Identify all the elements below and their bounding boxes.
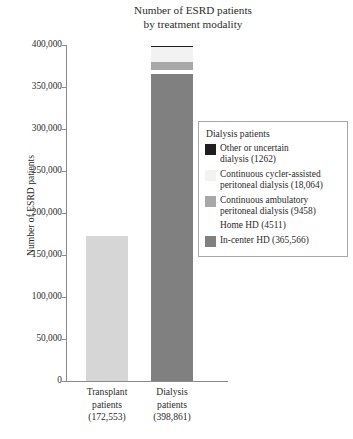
- chart-legend: Dialysis patients Other or uncertaindial…: [198, 121, 348, 257]
- y-axis-tick-mark: [62, 213, 66, 214]
- legend-item-label-line-1: Continuous ambulatory: [220, 195, 316, 206]
- legend-item-label-line-1: In-center HD (365,566): [220, 235, 309, 246]
- bar-transplant-patients: [86, 236, 128, 381]
- legend-swatch-icon: [205, 196, 216, 207]
- bar-segment-continuous-cycler-assisted-peritoneal-dialysis: [151, 47, 193, 62]
- x-axis-category-line-3: (398,861): [130, 411, 214, 424]
- chart-title-line-2: by treatment modality: [113, 18, 273, 32]
- bar-segment-continuous-ambulatory-peritoneal-dialysis: [151, 62, 193, 70]
- legend-item-label-line-2: dialysis (1262): [220, 154, 289, 165]
- legend-item-label: Home HD (4511): [220, 220, 286, 231]
- legend-item-label-line-2: peritoneal dialysis (9458): [220, 206, 316, 217]
- y-axis-tick-mark: [62, 255, 66, 256]
- y-axis-tick-mark: [62, 129, 66, 130]
- legend-title: Dialysis patients: [206, 128, 342, 139]
- legend-item-label-line-2: peritoneal dialysis (18,064): [220, 180, 323, 191]
- y-axis-tick-mark: [62, 339, 66, 340]
- y-axis-line: [66, 45, 67, 381]
- x-axis-category-line-1: Dialysis: [130, 386, 214, 399]
- legend-item-label-line-1: Continuous cycler-assisted: [220, 169, 323, 180]
- y-axis-tick-label: 300,000: [0, 123, 62, 133]
- legend-item-label: Other or uncertaindialysis (1262): [220, 143, 289, 166]
- bar-segment-other-or-uncertain-dialysis: [151, 46, 193, 47]
- y-axis-tick-label: 350,000: [0, 81, 62, 91]
- legend-item-label: Continuous ambulatoryperitoneal dialysis…: [220, 195, 316, 218]
- y-axis-tick-mark: [62, 87, 66, 88]
- legend-swatch-icon: [205, 221, 216, 232]
- bar-segment-home-hd: [151, 70, 193, 74]
- legend-item-label-line-1: Home HD (4511): [220, 220, 286, 231]
- chart-title: Number of ESRD patients by treatment mod…: [113, 4, 273, 31]
- legend-item-group: Other or uncertaindialysis (1262)Continu…: [205, 143, 342, 247]
- bar-dialysis-patients: [151, 46, 193, 381]
- legend-swatch-icon: [205, 170, 216, 181]
- y-axis-tick-mark: [62, 297, 66, 298]
- esrd-treatment-modality-chart: Number of ESRD patients by treatment mod…: [0, 0, 353, 439]
- legend-swatch-icon: [205, 144, 216, 155]
- chart-title-line-1: Number of ESRD patients: [113, 4, 273, 18]
- y-axis-tick-label: 0: [0, 375, 62, 385]
- y-axis-tick-label: 100,000: [0, 291, 62, 301]
- legend-item-label: Continuous cycler-assistedperitoneal dia…: [220, 169, 323, 192]
- y-axis-tick-label: 200,000: [0, 207, 62, 217]
- legend-item: Other or uncertaindialysis (1262): [205, 143, 342, 166]
- y-axis-tick-label: 50,000: [0, 333, 62, 343]
- legend-item: Continuous ambulatoryperitoneal dialysis…: [205, 195, 342, 218]
- x-axis-category-label: Dialysispatients(398,861): [130, 386, 214, 424]
- bar-segment-transplant-patients: [86, 236, 128, 381]
- legend-item: In-center HD (365,566): [205, 235, 342, 247]
- legend-item: Continuous cycler-assistedperitoneal dia…: [205, 169, 342, 192]
- y-axis-tick-label: 400,000: [0, 39, 62, 49]
- legend-item-label: In-center HD (365,566): [220, 235, 309, 246]
- legend-item: Home HD (4511): [205, 220, 342, 232]
- y-axis-tick-label: 150,000: [0, 249, 62, 259]
- bar-segment-in-center-hd: [151, 74, 193, 381]
- legend-item-label-line-1: Other or uncertain: [220, 143, 289, 154]
- y-axis-tick-mark: [62, 171, 66, 172]
- y-axis-label: Number of ESRD patients: [25, 116, 36, 296]
- y-axis-tick-mark: [62, 45, 66, 46]
- y-axis-tick-label: 250,000: [0, 165, 62, 175]
- x-axis-category-line-2: patients: [130, 399, 214, 412]
- legend-swatch-icon: [205, 236, 216, 247]
